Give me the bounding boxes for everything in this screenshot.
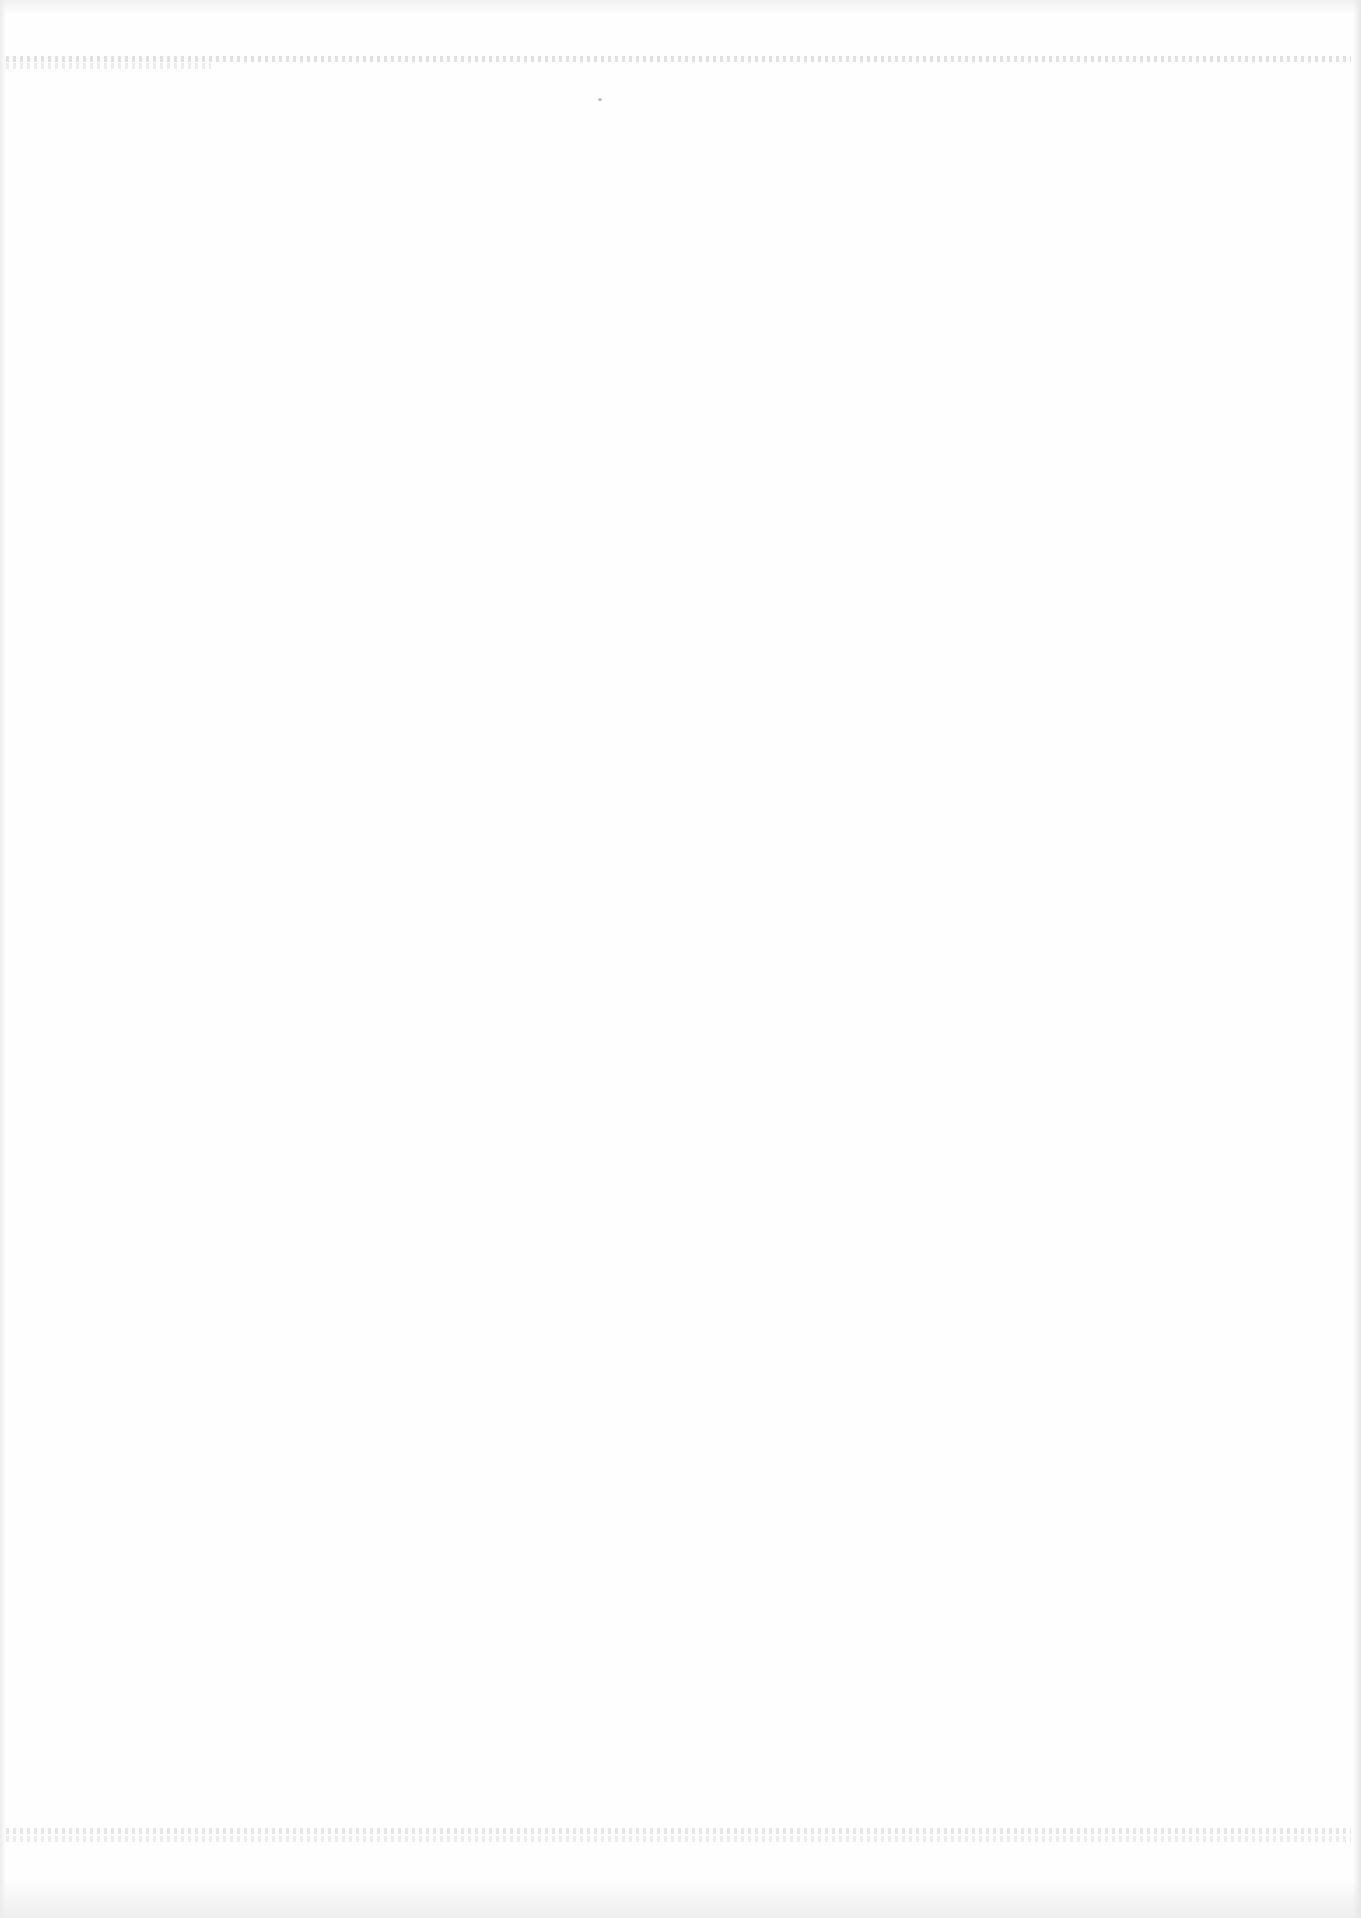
bleed-through-band <box>6 1828 1351 1834</box>
scan-speck <box>598 98 602 101</box>
bleed-through-band <box>6 56 1351 62</box>
blank-scanned-page <box>0 0 1361 1918</box>
scan-edge-right <box>1353 0 1361 1918</box>
scan-edge-left <box>0 0 6 1918</box>
scan-edge-bottom <box>0 1878 1361 1918</box>
bleed-through-band <box>6 63 211 69</box>
scan-edge-top <box>0 0 1361 14</box>
bleed-through-band <box>6 1836 1351 1842</box>
